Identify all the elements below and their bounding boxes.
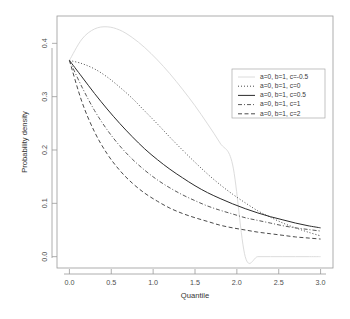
y-axis-title: Probability density bbox=[20, 111, 29, 173]
x-tick-label: 2.0 bbox=[232, 278, 242, 287]
legend-label-1: a=0, b=1, c=0 bbox=[260, 82, 301, 89]
x-axis-tick-labels: 0.00.51.01.52.02.53.0 bbox=[64, 278, 325, 287]
x-tick-label: 1.5 bbox=[190, 278, 200, 287]
y-axis-ticks bbox=[52, 43, 57, 256]
probability-density-chart: 0.00.10.20.30.4 0.00.51.01.52.02.53.0 Qu… bbox=[0, 0, 350, 319]
x-tick-label: 1.0 bbox=[148, 278, 158, 287]
y-tick-label: 0.2 bbox=[40, 145, 49, 155]
y-axis-tick-labels: 0.00.10.20.30.4 bbox=[40, 38, 49, 261]
chart-legend: a=0, b=1, c=-0.5a=0, b=1, c=0a=0, b=1, c… bbox=[232, 69, 325, 118]
x-axis-ticks bbox=[69, 269, 320, 274]
x-tick-label: 2.5 bbox=[274, 278, 284, 287]
plot-frame bbox=[57, 16, 333, 268]
legend-label-3: a=0, b=1, c=1 bbox=[260, 100, 301, 107]
y-tick-label: 0.1 bbox=[40, 198, 49, 208]
legend-label-2: a=0, b=1, c=0.5 bbox=[260, 91, 306, 98]
x-tick-label: 3.0 bbox=[316, 278, 326, 287]
x-axis: 0.00.51.01.52.02.53.0 bbox=[64, 269, 326, 287]
data-curves bbox=[69, 27, 320, 264]
curve-series-0 bbox=[69, 27, 320, 264]
legend-label-4: a=0, b=1, c=2 bbox=[260, 110, 301, 117]
y-tick-label: 0.0 bbox=[40, 252, 49, 262]
x-tick-label: 0.5 bbox=[106, 278, 116, 287]
y-axis: 0.00.10.20.30.4 bbox=[40, 38, 57, 261]
legend-label-0: a=0, b=1, c=-0.5 bbox=[260, 73, 309, 80]
figure-container: 0.00.10.20.30.4 0.00.51.01.52.02.53.0 Qu… bbox=[0, 0, 350, 319]
x-axis-title: Quantile bbox=[181, 291, 209, 300]
y-tick-label: 0.4 bbox=[40, 38, 49, 48]
x-tick-label: 0.0 bbox=[64, 278, 74, 287]
y-tick-label: 0.3 bbox=[40, 92, 49, 102]
